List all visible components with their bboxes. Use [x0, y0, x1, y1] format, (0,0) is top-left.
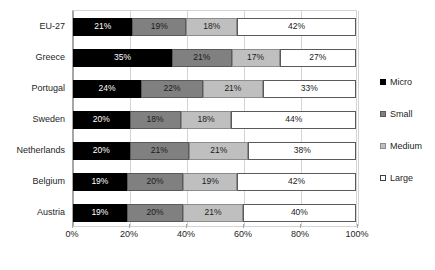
bar-row: 19%20%21%40% — [73, 204, 356, 222]
x-tick-label: 100% — [337, 228, 377, 240]
legend-item-small[interactable]: Small — [380, 108, 413, 120]
y-axis-label: EU-27 — [0, 21, 65, 31]
segment-value-label: 19% — [151, 22, 168, 31]
bar-segment-medium: 21% — [189, 142, 248, 160]
segment-value-label: 38% — [294, 146, 311, 155]
bar-segment-micro: 20% — [73, 111, 130, 129]
bar-row: 19%20%19%42% — [73, 173, 356, 191]
segment-value-label: 19% — [91, 208, 108, 217]
bar-segment-large: 33% — [263, 80, 356, 98]
gridline — [358, 11, 359, 226]
legend-label: Large — [390, 173, 413, 183]
bar-segment-medium: 18% — [186, 18, 237, 36]
y-axis-label: Greece — [0, 52, 65, 62]
x-tick-label: 0% — [52, 228, 92, 240]
bar-row: 24%22%21%33% — [73, 80, 356, 98]
x-tick-label: 20% — [109, 228, 149, 240]
bar-segment-medium: 18% — [181, 111, 232, 129]
bar-segment-small: 22% — [141, 80, 203, 98]
segment-value-label: 18% — [198, 115, 215, 124]
segment-value-label: 42% — [288, 22, 305, 31]
segment-value-label: 21% — [205, 208, 222, 217]
x-axis-tick-labels: 0%20%40%60%80%100% — [72, 228, 357, 248]
bar-segment-small: 20% — [127, 204, 184, 222]
segment-value-label: 20% — [93, 115, 110, 124]
bar-segment-medium: 21% — [183, 204, 242, 222]
bar-segment-large: 27% — [280, 49, 356, 67]
x-tick-label: 80% — [280, 228, 320, 240]
bar-segment-micro: 19% — [73, 204, 127, 222]
segment-value-label: 18% — [203, 22, 220, 31]
bar-segment-small: 19% — [132, 18, 186, 36]
segment-value-label: 40% — [291, 208, 308, 217]
segment-value-label: 44% — [285, 115, 302, 124]
y-axis-label: Netherlands — [0, 145, 65, 155]
legend-swatch-icon — [380, 175, 386, 181]
legend-swatch-icon — [380, 111, 386, 117]
segment-value-label: 19% — [91, 177, 108, 186]
bar-segment-micro: 35% — [73, 49, 172, 67]
legend-label: Small — [390, 109, 413, 119]
bar-segment-micro: 20% — [73, 142, 130, 160]
bar-segment-large: 38% — [248, 142, 356, 160]
segment-value-label: 35% — [114, 53, 131, 62]
segment-value-label: 20% — [147, 208, 164, 217]
legend-item-medium[interactable]: Medium — [380, 140, 422, 152]
bar-segment-medium: 19% — [183, 173, 237, 191]
y-axis-category-labels: EU-27GreecePortugalSwedenNetherlandsBelg… — [0, 10, 71, 227]
bar-segment-large: 44% — [231, 111, 356, 129]
y-axis-label: Belgium — [0, 176, 65, 186]
bar-segment-large: 42% — [237, 173, 356, 191]
bar-segment-medium: 21% — [203, 80, 262, 98]
bar-row: 21%19%18%42% — [73, 18, 356, 36]
legend-label: Micro — [390, 77, 412, 87]
bar-row: 35%21%17%27% — [73, 49, 356, 67]
legend-item-large[interactable]: Large — [380, 172, 413, 184]
segment-value-label: 21% — [210, 146, 227, 155]
segment-value-label: 21% — [193, 53, 210, 62]
bar-segment-large: 42% — [237, 18, 356, 36]
segment-value-label: 27% — [309, 53, 326, 62]
segment-value-label: 21% — [94, 22, 111, 31]
segment-value-label: 21% — [151, 146, 168, 155]
segment-value-label: 18% — [147, 115, 164, 124]
segment-value-label: 20% — [93, 146, 110, 155]
bar-rows: 21%19%18%42%35%21%17%27%24%22%21%33%20%1… — [73, 11, 356, 226]
y-axis-label: Portugal — [0, 83, 65, 93]
legend-item-micro[interactable]: Micro — [380, 76, 412, 88]
plot-area: 21%19%18%42%35%21%17%27%24%22%21%33%20%1… — [72, 10, 357, 227]
segment-value-label: 33% — [301, 84, 318, 93]
segment-value-label: 20% — [147, 177, 164, 186]
legend-label: Medium — [390, 141, 422, 151]
segment-value-label: 17% — [247, 53, 264, 62]
y-axis-label: Sweden — [0, 114, 65, 124]
bar-segment-small: 21% — [172, 49, 231, 67]
bar-row: 20%18%18%44% — [73, 111, 356, 129]
bar-segment-medium: 17% — [232, 49, 280, 67]
segment-value-label: 24% — [98, 84, 115, 93]
segment-value-label: 19% — [202, 177, 219, 186]
x-tick-label: 60% — [223, 228, 263, 240]
stacked-bar-chart: EU-27GreecePortugalSwedenNetherlandsBelg… — [0, 0, 435, 270]
bar-segment-small: 18% — [130, 111, 181, 129]
legend-swatch-icon — [380, 79, 386, 85]
segment-value-label: 21% — [224, 84, 241, 93]
bar-segment-micro: 24% — [73, 80, 141, 98]
bar-row: 20%21%21%38% — [73, 142, 356, 160]
y-axis-label: Austria — [0, 207, 65, 217]
legend-swatch-icon — [380, 143, 386, 149]
bar-segment-micro: 19% — [73, 173, 127, 191]
bar-segment-small: 21% — [130, 142, 189, 160]
bar-segment-micro: 21% — [73, 18, 132, 36]
segment-value-label: 42% — [288, 177, 305, 186]
x-tick-label: 40% — [166, 228, 206, 240]
bar-segment-small: 20% — [127, 173, 184, 191]
bar-segment-large: 40% — [243, 204, 356, 222]
segment-value-label: 22% — [164, 84, 181, 93]
